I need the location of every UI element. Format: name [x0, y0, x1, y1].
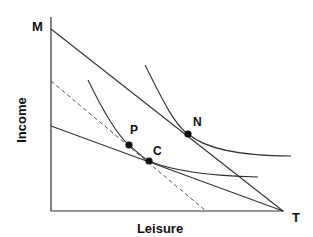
- indifference-curve-upper: [145, 65, 291, 156]
- label-N: N: [193, 115, 202, 129]
- label-M: M: [32, 19, 43, 34]
- y-axis-label: Income: [14, 97, 29, 143]
- x-axis-label: Leisure: [137, 221, 183, 236]
- label-T: T: [292, 210, 300, 225]
- budget-line-lower: [51, 126, 283, 211]
- label-C: C: [153, 144, 162, 158]
- point-N-dot: [184, 130, 191, 137]
- diagram-canvas: M T N P C Leisure Income: [0, 0, 313, 237]
- budget-line-MT: [51, 29, 283, 211]
- indifference-curve-lower: [88, 80, 258, 177]
- label-P: P: [130, 123, 138, 137]
- point-C-dot: [145, 157, 152, 164]
- point-P-dot: [125, 141, 132, 148]
